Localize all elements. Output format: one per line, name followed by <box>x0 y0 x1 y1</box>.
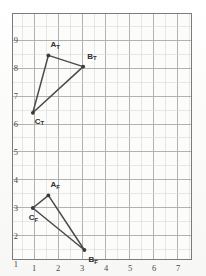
vertex-label-af: AF <box>50 181 59 189</box>
vertex-label-cf: CF <box>29 214 38 222</box>
x-axis-tick-7: 7 <box>168 264 188 273</box>
y-axis-tick-7: 7 <box>2 92 18 101</box>
y-axis-tick-2: 2 <box>2 232 18 241</box>
vertex-label-subscript: F <box>94 259 98 265</box>
y-axis-tick-4: 4 <box>2 176 18 185</box>
y-axis-tick-3: 3 <box>2 204 18 213</box>
grid-layer <box>13 14 191 259</box>
y-axis-tick-6: 6 <box>2 120 18 129</box>
y-axis-tick-5: 5 <box>2 148 18 157</box>
vertex-label-subscript: T <box>56 44 60 50</box>
vertex-label-subscript: T <box>93 55 97 61</box>
vertex-label-subscript: F <box>35 217 39 223</box>
vertex-label-letter: C <box>35 117 41 126</box>
x-axis-tick-1: 1 <box>24 264 44 273</box>
vertex-label-ct: CT <box>35 118 44 126</box>
x-axis-tick-2: 2 <box>48 264 68 273</box>
vertex-label-subscript: T <box>41 120 45 126</box>
y-axis-tick-9: 9 <box>2 36 18 45</box>
vertex-label-bf: BF <box>88 256 97 264</box>
x-axis-tick-6: 6 <box>144 264 164 273</box>
y-axis-tick-8: 8 <box>2 64 18 73</box>
plot-frame <box>12 13 192 260</box>
x-axis-tick-5: 5 <box>120 264 140 273</box>
vertex-label-letter: C <box>29 213 35 222</box>
vertex-label-at: AT <box>50 41 59 49</box>
vertex-label-bt: BT <box>87 53 96 61</box>
x-axis-tick-3: 3 <box>72 264 92 273</box>
y-axis-tick-1: 1 <box>2 260 18 269</box>
x-axis-tick-4: 4 <box>96 264 116 273</box>
vertex-label-subscript: F <box>56 184 60 190</box>
